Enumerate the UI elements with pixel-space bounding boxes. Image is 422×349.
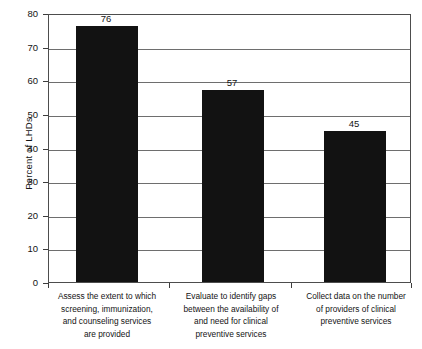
x-axis-category-label: Assess the extent to whichscreening, imm…: [44, 290, 170, 340]
x-axis-tick-mark: [411, 283, 412, 288]
bar: [202, 90, 264, 282]
bar-chart: Percent of LHDs 01020304050607080 765745…: [0, 0, 422, 349]
y-axis-tick-label: 50: [4, 110, 38, 120]
x-axis-category-label: Evaluate to identify gapsbetween the ava…: [170, 290, 292, 340]
y-axis-tick-label: 10: [4, 244, 38, 254]
category-label-line: are provided: [44, 328, 170, 341]
y-axis-tick-label: 70: [4, 43, 38, 53]
bar-value-label: 57: [212, 78, 252, 88]
category-label-line: Assess the extent to which: [44, 290, 170, 303]
bar: [76, 26, 138, 282]
y-axis-tick-label: 0: [4, 278, 38, 288]
y-axis-tick-label: 30: [4, 177, 38, 187]
bar: [324, 131, 386, 282]
category-label-line: and counseling services: [44, 315, 170, 328]
y-axis-tick-label: 40: [4, 144, 38, 154]
bar-value-label: 45: [334, 119, 374, 129]
bar-value-label: 76: [86, 14, 126, 24]
category-label-line: and need for clinical: [170, 315, 292, 328]
category-label-line: of providers of clinical: [292, 303, 420, 316]
x-axis-tick-mark: [169, 283, 170, 288]
y-axis-tick-label: 80: [4, 9, 38, 19]
category-label-line: Collect data on the number: [292, 290, 420, 303]
y-axis-tick-label: 60: [4, 76, 38, 86]
category-label-line: between the availability of: [170, 303, 292, 316]
x-axis-category-label: Collect data on the numberof providers o…: [292, 290, 420, 328]
category-label-line: Evaluate to identify gaps: [170, 290, 292, 303]
x-axis-tick-mark: [291, 283, 292, 288]
plot-area: [48, 14, 411, 283]
x-axis-tick-mark: [48, 283, 49, 288]
category-label-line: preventive services: [170, 328, 292, 341]
y-axis-tick-label: 20: [4, 211, 38, 221]
category-label-line: screening, immunization,: [44, 303, 170, 316]
category-label-line: preventive services: [292, 315, 420, 328]
